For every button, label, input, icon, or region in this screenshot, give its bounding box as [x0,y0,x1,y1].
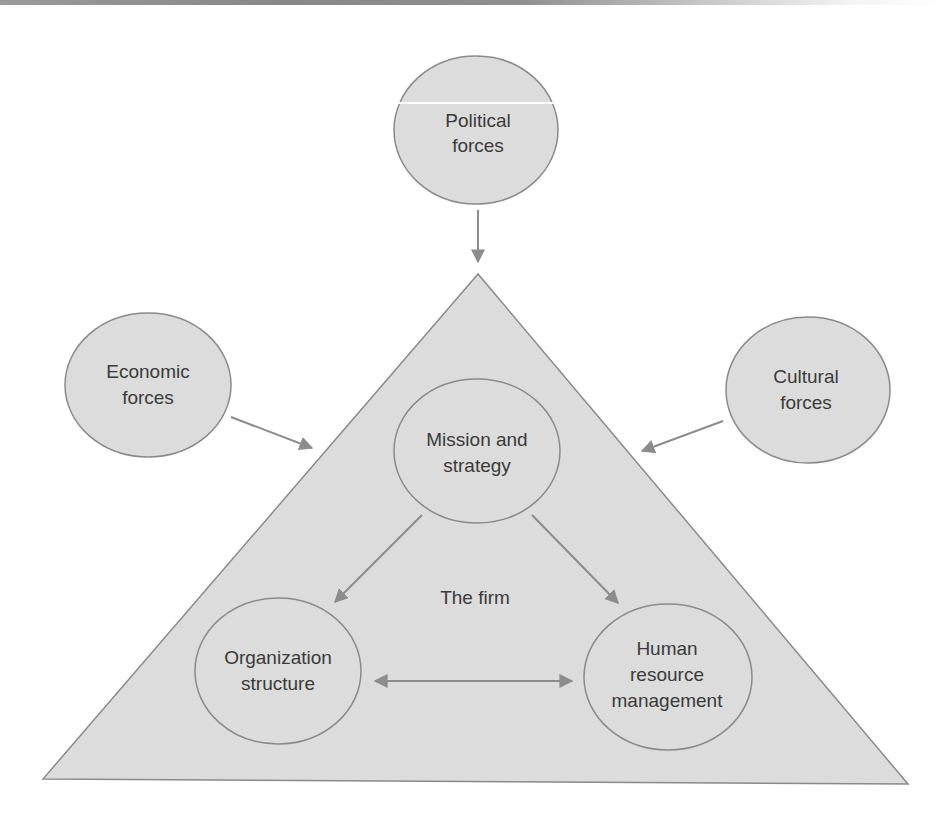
hrm-label-line3: management [612,690,724,711]
firm-label: The firm [440,587,510,608]
economic-forces-label-line2: forces [122,387,174,408]
cultural-forces-label-line1: Cultural [773,366,838,387]
hrm-label-line2: resource [630,664,704,685]
cultural-forces-node: Cultural forces [726,317,890,463]
organization-structure-label-line1: Organization [224,647,332,668]
cultural-arrow [642,421,723,451]
economic-forces-node: Economic forces [65,313,231,457]
mission-strategy-label-line1: Mission and [426,429,527,450]
economic-arrow [231,417,312,448]
mission-strategy-label-line2: strategy [443,455,511,476]
political-forces-label-line2: forces [452,135,504,156]
political-forces-label-line1: Political [445,110,510,131]
political-forces-node: Political forces [394,56,559,204]
mission-strategy-node: Mission and strategy [394,379,560,523]
organization-structure-node: Organization structure [195,598,361,744]
economic-forces-label-line1: Economic [106,361,189,382]
organization-structure-label-line2: structure [241,673,315,694]
cultural-forces-label-line2: forces [780,392,832,413]
firm-environment-diagram: Political forces Economic forces Cultura… [0,0,946,817]
human-resource-management-node: Human resource management [584,604,752,750]
hrm-label-line1: Human [636,638,697,659]
